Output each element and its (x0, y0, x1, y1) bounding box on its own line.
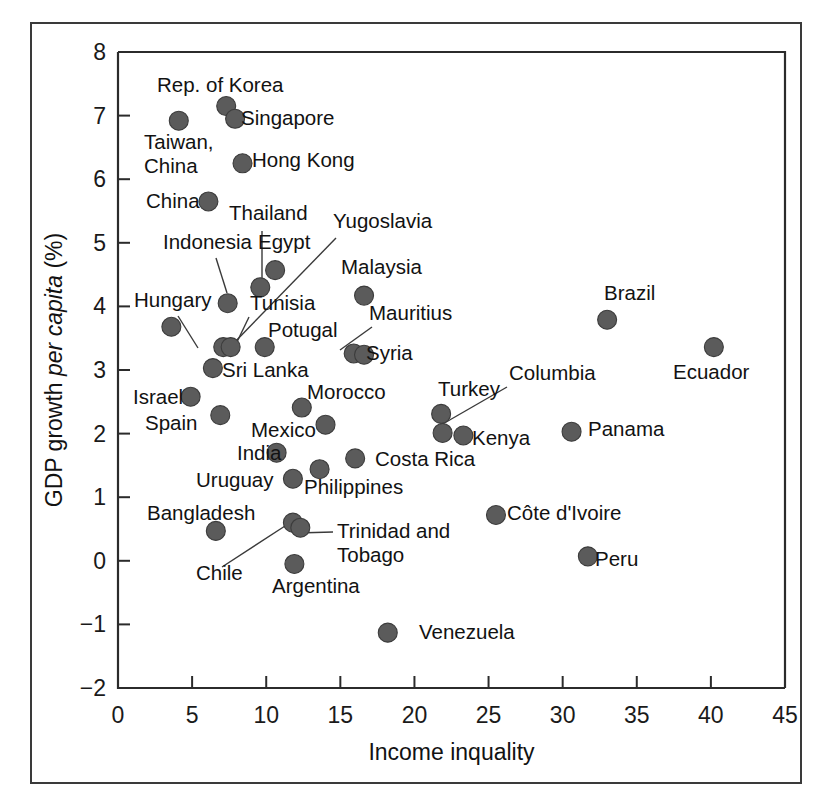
data-point-label: Malaysia (341, 255, 422, 278)
data-point-label: Panama (588, 417, 665, 440)
data-point (316, 415, 335, 434)
data-point (562, 422, 581, 441)
data-point (704, 338, 723, 357)
data-point-label: Morocco (307, 380, 386, 403)
data-point (199, 192, 218, 211)
data-point-label: Indonesia (163, 230, 253, 253)
data-point (486, 506, 505, 525)
data-point (203, 359, 222, 378)
figure-container: −2−1012345678051015202530354045 Rep. of … (0, 0, 819, 793)
data-point-label: India (237, 441, 282, 464)
data-point (211, 406, 230, 425)
leader-line (236, 317, 249, 344)
x-tick-label: 25 (476, 702, 502, 728)
data-point-label: Hong Kong (252, 148, 355, 171)
data-point (454, 426, 473, 445)
data-point (162, 317, 181, 336)
data-point-label: Bangladesh (147, 501, 255, 524)
x-axis-title: Income inquality (368, 739, 535, 765)
y-tick-label: 4 (93, 293, 106, 319)
data-point-label: Potugal (268, 318, 338, 341)
x-tick-label: 40 (698, 702, 724, 728)
point-labels: Rep. of KoreaSingaporeTaiwan,ChinaHong K… (133, 73, 750, 643)
y-axis-title: GDP growth per capita (%) (41, 233, 67, 507)
x-tick-label: 45 (772, 702, 798, 728)
data-point-label: Sri Lanka (222, 358, 309, 381)
data-point-label: Hungary (134, 288, 212, 311)
data-point-label: Yugoslavia (333, 209, 433, 232)
data-point (169, 111, 188, 130)
data-point-label: Columbia (509, 361, 596, 384)
data-point-label: Thailand (229, 201, 308, 224)
data-point (283, 469, 302, 488)
data-point (233, 154, 252, 173)
data-point-label: Argentina (272, 574, 360, 597)
data-point-label: Côte d'Ivoire (507, 501, 621, 524)
data-point-label: Egypt (258, 230, 311, 253)
y-tick-label: −1 (80, 611, 106, 637)
leader-line (216, 258, 227, 293)
data-point-label: Taiwan,China (144, 130, 214, 177)
y-tick-label: 8 (93, 39, 106, 65)
x-tick-label: 30 (550, 702, 576, 728)
data-point-label: Syria (366, 341, 413, 364)
x-tick-label: 0 (112, 702, 125, 728)
x-tick-label: 35 (624, 702, 650, 728)
data-point-label: Chile (196, 561, 243, 584)
data-point (346, 449, 365, 468)
data-point-label: Spain (145, 411, 197, 434)
data-point (433, 423, 452, 442)
data-point (218, 294, 237, 313)
data-point (181, 387, 200, 406)
data-point (598, 310, 617, 329)
data-point (378, 623, 397, 642)
data-point-label: Rep. of Korea (157, 73, 284, 96)
data-point-label: Brazil (604, 281, 655, 304)
data-point-label: Tunisia (250, 291, 316, 314)
y-tick-label: 0 (93, 548, 106, 574)
data-point (206, 521, 225, 540)
data-point-label: Israel (133, 385, 183, 408)
y-tick-label: 5 (93, 230, 106, 256)
data-point (432, 404, 451, 423)
y-tick-label: 7 (93, 103, 106, 129)
x-tick-label: 15 (328, 702, 354, 728)
data-point-label: Trinidad andTobago (337, 519, 450, 566)
y-tick-label: 6 (93, 166, 106, 192)
y-tick-label: −2 (80, 675, 106, 701)
data-point-label: Peru (595, 547, 638, 570)
data-point (221, 338, 240, 357)
data-point (266, 261, 285, 280)
x-tick-label: 20 (402, 702, 428, 728)
data-point-label: Turkey (438, 377, 501, 400)
data-point-label: Mauritius (369, 301, 452, 324)
data-point-label: Costa Rica (375, 447, 476, 470)
data-point-label: Kenya (472, 426, 531, 449)
data-point-label: China (146, 189, 200, 212)
data-point-label: Mexico (251, 418, 316, 441)
x-tick-label: 10 (253, 702, 279, 728)
data-point-label: Ecuador (673, 360, 750, 383)
data-point-label: Singapore (241, 106, 334, 129)
data-point (285, 554, 304, 573)
data-point-label: Uruguay (196, 468, 274, 491)
data-point (291, 518, 310, 537)
y-tick-label: 1 (93, 484, 106, 510)
x-tick-label: 5 (186, 702, 199, 728)
scatter-plot: −2−1012345678051015202530354045 Rep. of … (0, 0, 819, 793)
data-point-label: Philippines (304, 475, 403, 498)
y-tick-label: 3 (93, 357, 106, 383)
leader-line (178, 316, 198, 348)
y-tick-label: 2 (93, 421, 106, 447)
data-point-label: Venezuela (419, 620, 515, 643)
